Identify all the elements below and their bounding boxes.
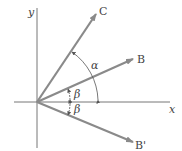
beta-lower-arc xyxy=(68,104,70,115)
vector-b-prime-label: B' xyxy=(135,139,146,151)
vector-diagram: y x C B B' α β β xyxy=(0,0,182,151)
alpha-label: α xyxy=(91,59,99,72)
vector-b-prime xyxy=(37,102,133,142)
x-axis-label: x xyxy=(169,103,176,116)
beta-upper-label: β xyxy=(73,88,80,101)
beta-upper-arc xyxy=(68,89,70,100)
vector-b-label: B xyxy=(137,53,145,66)
beta-lower-label: β xyxy=(73,103,80,116)
y-axis-label: y xyxy=(27,6,35,19)
vector-c-label: C xyxy=(99,5,107,18)
